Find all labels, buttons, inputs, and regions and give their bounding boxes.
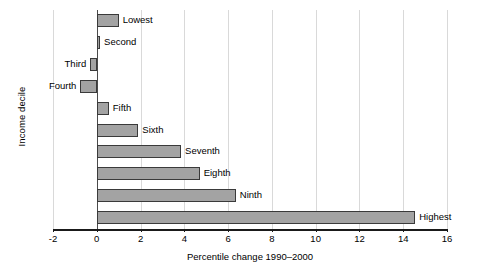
bar-lowest xyxy=(97,14,119,27)
bar-label-lowest: Lowest xyxy=(119,13,153,27)
bar-row: Fifth xyxy=(53,98,447,120)
bar-sixth xyxy=(97,124,139,137)
bar-label-highest: Highest xyxy=(415,210,451,224)
bar-third xyxy=(90,58,97,71)
x-tick-label: -2 xyxy=(49,233,57,244)
y-axis-title-text: Income decile xyxy=(17,86,28,146)
bar-eighth xyxy=(97,167,200,180)
x-tick-label: 14 xyxy=(398,233,409,244)
x-tick-label: 4 xyxy=(182,233,187,244)
bar-row: Third xyxy=(53,54,447,76)
bar-fifth xyxy=(97,102,109,115)
bar-row: Fourth xyxy=(53,76,447,98)
bar-seventh xyxy=(97,145,181,158)
bar-row: Highest xyxy=(53,207,447,229)
x-tick xyxy=(53,229,54,232)
bar-row: Sixth xyxy=(53,120,447,142)
bar-label-fifth: Fifth xyxy=(109,101,131,115)
bar-label-third: Third xyxy=(65,57,91,71)
x-tick xyxy=(272,229,273,232)
bar-label-fourth: Fourth xyxy=(49,79,80,93)
x-tick-label: 0 xyxy=(94,233,99,244)
x-tick xyxy=(359,229,360,232)
plot-area: LowestSecondThirdFourthFifthSixthSeventh… xyxy=(53,10,447,229)
bar-row: Seventh xyxy=(53,141,447,163)
x-tick-label: 6 xyxy=(225,233,230,244)
bar-chart-figure: Income decile LowestSecondThirdFourthFif… xyxy=(0,0,478,273)
bar-row: Lowest xyxy=(53,10,447,32)
x-tick xyxy=(97,229,98,232)
x-tick xyxy=(403,229,404,232)
x-tick xyxy=(228,229,229,232)
bar-label-seventh: Seventh xyxy=(181,144,220,158)
x-tick-label: 10 xyxy=(310,233,321,244)
x-tick-label: 2 xyxy=(138,233,143,244)
x-tick-label: 8 xyxy=(269,233,274,244)
bar-row: Ninth xyxy=(53,185,447,207)
bar-label-second: Second xyxy=(100,35,136,49)
x-axis-line xyxy=(53,229,448,231)
x-tick xyxy=(316,229,317,232)
bar-ninth xyxy=(97,189,236,202)
x-axis-title: Percentile change 1990–2000 xyxy=(53,251,447,262)
bar-fourth xyxy=(80,80,96,93)
x-tick-label: 12 xyxy=(354,233,365,244)
bar-label-sixth: Sixth xyxy=(138,123,163,137)
bar-row: Eighth xyxy=(53,163,447,185)
x-tick-label: 16 xyxy=(442,233,453,244)
x-tick xyxy=(184,229,185,232)
bar-highest xyxy=(97,211,415,224)
bar-label-eighth: Eighth xyxy=(200,166,231,180)
y-axis-title: Income decile xyxy=(14,0,30,232)
x-tick xyxy=(447,229,448,232)
x-tick xyxy=(141,229,142,232)
bar-row: Second xyxy=(53,32,447,54)
gridline xyxy=(447,10,448,229)
bar-label-ninth: Ninth xyxy=(236,188,262,202)
